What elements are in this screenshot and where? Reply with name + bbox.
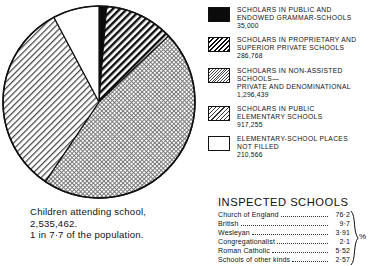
inspected-schools-body: Church of England76·2British9·7Wesleyan3… [218, 210, 372, 264]
brace-icon [350, 210, 359, 266]
inspected-schools-label: Congregationalist [218, 237, 275, 246]
leader-dots [281, 210, 328, 217]
legend-item[interactable]: SCHOLARS IN PUBLIC ANDENDOWED GRAMMAR-SC… [208, 5, 372, 30]
legend-label-line: NOT FILLED [237, 143, 348, 151]
legend-swatch-solid-black [208, 7, 230, 22]
legend-swatch-fine-crosshatch-dots [208, 68, 230, 83]
inspected-schools-label: Roman Catholic [218, 246, 270, 255]
leader-dots [272, 246, 328, 253]
legend-label-line: SCHOLARS IN PUBLIC AND [237, 6, 352, 14]
legend-label-line: SCHOLARS IN PROPRIETARY AND [237, 36, 356, 44]
legend-label-line: ENDOWED GRAMMAR-SCHOOLS [237, 14, 352, 22]
inspected-schools-label: Wesleyan [218, 228, 250, 237]
inspected-schools-value: 76·2 [330, 210, 350, 219]
legend-value: 917,255 [237, 121, 322, 129]
inspected-schools-row: Church of England76·2 [218, 210, 350, 219]
chart-page: Children attending school, 2,535,462. 1 … [0, 0, 372, 266]
inspected-schools-value: 2·1 [330, 237, 350, 246]
inspected-schools-row: Congregationalist2·1 [218, 237, 350, 246]
inspected-schools-title: INSPECTED SCHOOLS [218, 196, 372, 208]
legend-text: SCHOLARS IN PUBLICELEMENTARY SCHOOLS917,… [237, 104, 322, 129]
leader-dots [292, 255, 328, 262]
caption-line-2: 2,535,462. [30, 218, 215, 230]
legend-label-line: SCHOLARS IN NON-ASSISTED [237, 67, 351, 75]
inspected-schools-row: Roman Catholic5·52 [218, 246, 350, 255]
legend-label-line: PRIVATE AND DENOMINATIONAL [237, 83, 351, 91]
inspected-schools-value: 5·52 [330, 246, 350, 255]
leader-dots [252, 228, 328, 235]
percent-symbol: % [359, 232, 366, 241]
legend-label-line: ELEMENTARY-SCHOOL PLACES [237, 135, 348, 143]
legend-item[interactable]: SCHOLARS IN PUBLICELEMENTARY SCHOOLS917,… [208, 104, 372, 129]
pie-chart-svg [0, 0, 204, 206]
caption-line-1: Children attending school, [30, 206, 215, 218]
leader-dots [241, 219, 329, 226]
inspected-schools-label: British [218, 219, 239, 228]
inspected-schools-value: 9·7 [330, 219, 350, 228]
legend-value: 35,000 [237, 22, 352, 30]
legend-value: 210,566 [237, 151, 348, 159]
inspected-schools-panel: INSPECTED SCHOOLS Church of England76·2B… [218, 196, 372, 264]
pie-chart [0, 0, 204, 206]
legend-value: 286,768 [237, 52, 356, 60]
legend-label-line: SCHOLARS IN PUBLIC [237, 105, 322, 113]
inspected-schools-row: Schools of other kinds2·57 [218, 255, 350, 264]
legend-label-line: SCHOOLS— [237, 75, 351, 83]
legend-item[interactable]: SCHOLARS IN PROPRIETARY ANDSUPERIOR PRIV… [208, 35, 372, 60]
inspected-schools-row: Wesleyan3·91 [218, 228, 350, 237]
legend-label-line: SUPERIOR PRIVATE SCHOOLS [237, 44, 356, 52]
legend-item[interactable]: ELEMENTARY-SCHOOL PLACESNOT FILLED210,56… [208, 134, 372, 159]
chart-legend: SCHOLARS IN PUBLIC ANDENDOWED GRAMMAR-SC… [208, 5, 372, 165]
leader-dots [277, 237, 328, 244]
legend-text: ELEMENTARY-SCHOOL PLACESNOT FILLED210,56… [237, 134, 348, 159]
inspected-schools-row: British9·7 [218, 219, 350, 228]
legend-label-line: ELEMENTARY SCHOOLS [237, 113, 322, 121]
inspected-schools-label: Church of England [218, 210, 279, 219]
legend-item[interactable]: SCHOLARS IN NON-ASSISTEDSCHOOLS—PRIVATE … [208, 66, 372, 99]
legend-swatch-white [208, 136, 230, 151]
inspected-schools-label: Schools of other kinds [218, 255, 290, 264]
legend-text: SCHOLARS IN PROPRIETARY ANDSUPERIOR PRIV… [237, 35, 356, 60]
chart-caption: Children attending school, 2,535,462. 1 … [30, 206, 215, 241]
legend-swatch-bold-diagonal-hatch [208, 37, 230, 52]
legend-text: SCHOLARS IN NON-ASSISTEDSCHOOLS—PRIVATE … [237, 66, 351, 99]
caption-line-3: 1 in 7·7 of the population. [30, 229, 215, 241]
inspected-schools-value: 3·91 [330, 228, 350, 237]
legend-swatch-diagonal-hatch [208, 106, 230, 121]
legend-text: SCHOLARS IN PUBLIC ANDENDOWED GRAMMAR-SC… [237, 5, 352, 30]
inspected-schools-table: Church of England76·2British9·7Wesleyan3… [218, 210, 350, 264]
inspected-schools-value: 2·57 [330, 255, 350, 264]
legend-value: 1,296,439 [237, 91, 351, 99]
